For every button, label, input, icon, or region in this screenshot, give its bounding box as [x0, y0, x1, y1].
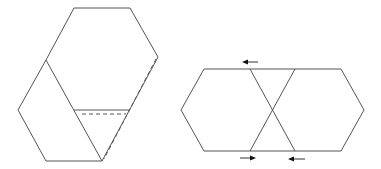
- right-figure: [181, 60, 364, 162]
- left-fold-line-0: [104, 59, 156, 159]
- bottom-arrow-right-icon: [240, 156, 256, 161]
- top-arrow-left-icon: [242, 60, 258, 65]
- left-solid-edge-0: [18, 8, 158, 161]
- left-figure: [18, 8, 158, 161]
- bottom-arrow-left-icon: [288, 157, 305, 162]
- folding-diagram: [0, 0, 381, 169]
